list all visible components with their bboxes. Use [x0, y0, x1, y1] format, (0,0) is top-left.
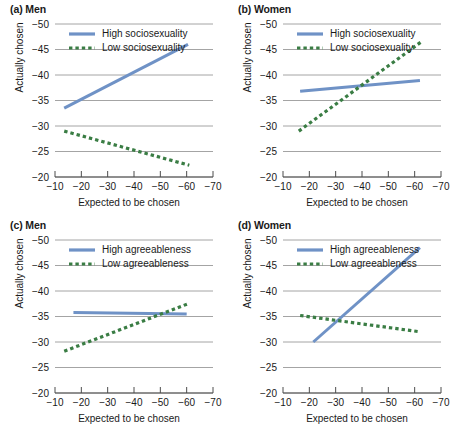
x-tick-label: −70 [205, 397, 222, 408]
y-tick-label: −25 [32, 146, 49, 157]
legend-label-low: Low agreeableness [102, 258, 189, 269]
y-tick-label: −35 [32, 311, 49, 322]
x-tick-label: −60 [406, 181, 423, 192]
x-tick-label: −70 [205, 181, 222, 192]
y-tick-label: −25 [260, 146, 277, 157]
x-tick-label: −10 [275, 397, 292, 408]
y-tick-label: −50 [32, 235, 49, 246]
y-tick-label: −40 [32, 286, 49, 297]
x-tick-label: −20 [301, 181, 318, 192]
chart-panel-c: (c) MenActually chosenExpected to be cho… [0, 216, 228, 433]
series-line-low [64, 304, 188, 351]
y-tick-label: −25 [32, 362, 49, 373]
y-tick-label: −35 [32, 95, 49, 106]
legend-label-low: Low sociosexuality [330, 42, 413, 53]
x-tick-label: −20 [301, 397, 318, 408]
x-tick-label: −50 [152, 397, 169, 408]
x-tick-label: −20 [73, 181, 90, 192]
x-tick-label: −70 [433, 181, 450, 192]
plot-area: −50−45−40−35−30−25−20−10−20−30−40−50−60−… [0, 216, 228, 432]
y-tick-label: −50 [260, 19, 277, 30]
y-tick-label: −25 [260, 362, 277, 373]
y-tick-label: −50 [260, 235, 277, 246]
series-line-low [64, 131, 189, 165]
y-tick-label: −35 [260, 95, 277, 106]
x-tick-label: −20 [73, 397, 90, 408]
plot-area: −50−45−40−35−30−25−20−10−20−30−40−50−60−… [228, 216, 456, 432]
legend-label-low: Low agreeableness [330, 258, 417, 269]
y-tick-label: −40 [260, 70, 277, 81]
legend-label-high: High sociosexuality [330, 28, 416, 39]
y-tick-label: −40 [260, 286, 277, 297]
y-tick-label: −50 [32, 19, 49, 30]
x-tick-label: −40 [354, 181, 371, 192]
y-tick-label: −30 [260, 121, 277, 132]
x-tick-label: −10 [47, 181, 64, 192]
y-tick-label: −45 [260, 260, 277, 271]
x-tick-label: −10 [47, 397, 64, 408]
y-tick-label: −35 [260, 311, 277, 322]
x-tick-label: −50 [380, 397, 397, 408]
series-line-low [300, 315, 420, 331]
y-tick-label: −30 [32, 121, 49, 132]
series-line-high [64, 44, 188, 108]
y-tick-label: −45 [32, 44, 49, 55]
x-tick-label: −60 [178, 397, 195, 408]
plot-area: −50−45−40−35−30−25−20−10−20−30−40−50−60−… [228, 0, 456, 216]
x-tick-label: −30 [99, 181, 116, 192]
figure-panel-grid: (a) MenActually chosenExpected to be cho… [0, 0, 456, 433]
legend-label-high: High agreeableness [102, 244, 191, 255]
x-tick-label: −40 [126, 181, 143, 192]
x-tick-label: −30 [99, 397, 116, 408]
x-tick-label: −30 [327, 397, 344, 408]
x-tick-label: −30 [327, 181, 344, 192]
x-tick-label: −50 [380, 181, 397, 192]
x-tick-label: −40 [126, 397, 143, 408]
series-line-high [300, 81, 420, 92]
legend-label-high: High agreeableness [330, 244, 419, 255]
y-tick-label: −30 [32, 337, 49, 348]
plot-area: −50−45−40−35−30−25−20−10−20−30−40−50−60−… [0, 0, 228, 216]
legend-label-low: Low sociosexuality [102, 42, 185, 53]
x-tick-label: −60 [178, 181, 195, 192]
chart-panel-b: (b) WomenActually chosenExpected to be c… [228, 0, 456, 216]
legend-label-high: High sociosexuality [102, 28, 188, 39]
y-tick-label: −40 [32, 70, 49, 81]
x-tick-label: −10 [275, 181, 292, 192]
series-line-high [73, 312, 186, 314]
x-tick-label: −50 [152, 181, 169, 192]
x-tick-label: −70 [433, 397, 450, 408]
y-tick-label: −30 [260, 337, 277, 348]
chart-panel-a: (a) MenActually chosenExpected to be cho… [0, 0, 228, 216]
y-tick-label: −45 [260, 44, 277, 55]
x-tick-label: −60 [406, 397, 423, 408]
x-tick-label: −40 [354, 397, 371, 408]
y-tick-label: −45 [32, 260, 49, 271]
chart-panel-d: (d) WomenActually chosenExpected to be c… [228, 216, 456, 433]
